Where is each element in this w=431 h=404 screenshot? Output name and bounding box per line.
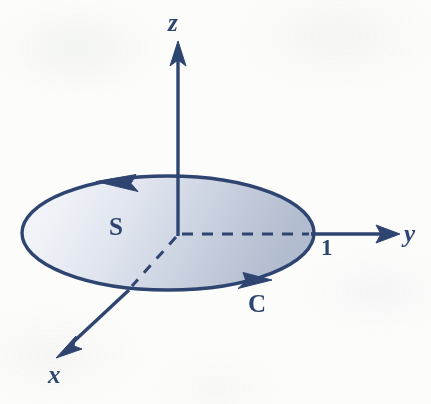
- curve-label-c: C: [248, 291, 266, 316]
- y-axis-label: y: [404, 221, 415, 246]
- figure-canvas: z y x S C 1: [0, 0, 431, 404]
- radius-tick-label: 1: [321, 236, 333, 259]
- z-axis-label: z: [168, 10, 178, 35]
- diagram-svg: [0, 0, 431, 404]
- surface-label-s: S: [109, 214, 123, 239]
- x-axis-label: x: [48, 362, 61, 387]
- x-axis-line: [70, 290, 129, 345]
